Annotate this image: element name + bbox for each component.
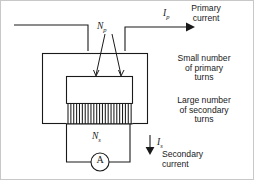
np-leader-line-left <box>96 34 105 75</box>
secondary-winding <box>67 104 133 125</box>
secondary-wire-left <box>67 124 92 162</box>
ammeter-label: A <box>91 154 109 165</box>
secondary-turns-symbol: Ns <box>92 131 101 143</box>
primary-turns-symbol: Np <box>97 21 107 33</box>
primary-current-arrowhead <box>186 23 195 32</box>
secondary-current-arrowhead <box>146 147 155 155</box>
primary-coil-block <box>67 77 133 104</box>
secondary-turns-symbol-subscript: s <box>98 136 101 143</box>
primary-turns-annotation: Small number of primary turns <box>156 54 252 83</box>
secondary-current-annotation: Secondary current <box>162 150 252 169</box>
primary-output-wire <box>125 27 186 51</box>
secondary-wire-right <box>109 124 130 162</box>
primary-input-wire <box>14 25 88 51</box>
primary-turns-symbol-subscript: p <box>103 26 106 33</box>
secondary-current-symbol: Is <box>157 137 163 149</box>
diagram-canvas: Ip Np Ns Is A Primary current Small numb… <box>0 0 255 181</box>
secondary-turns-annotation: Large number of secondary turns <box>156 96 252 125</box>
np-leader-line-right <box>112 34 121 75</box>
np-arrowhead-right <box>119 70 125 76</box>
secondary-current-symbol-subscript: s <box>160 142 163 149</box>
primary-current-annotation: Primary current <box>160 4 252 23</box>
